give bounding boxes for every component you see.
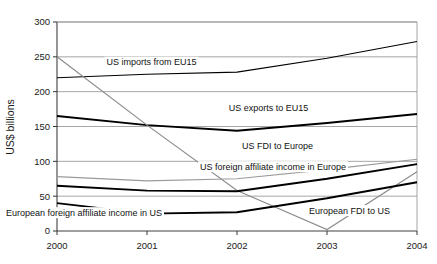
- x-tick-label: 2000: [46, 240, 67, 251]
- chart-canvas: 050100150200250300 20002001200220032004 …: [0, 0, 437, 264]
- y-tick-label: 300: [34, 16, 50, 27]
- y-tick-label: 100: [34, 156, 50, 167]
- y-tick-label: 250: [34, 51, 50, 62]
- series-inline-label: European FDI to US: [309, 206, 390, 216]
- x-tick-label: 2001: [136, 240, 157, 251]
- x-axis-ticks: 20002001200220032004: [46, 231, 427, 251]
- x-tick-label: 2002: [226, 240, 247, 251]
- y-axis-ticks: 050100150200250300: [34, 16, 57, 236]
- series-inline-label: US imports from EU15: [106, 57, 196, 67]
- x-tick-label: 2003: [316, 240, 337, 251]
- y-tick-label: 150: [34, 121, 50, 132]
- y-tick-label: 0: [45, 225, 50, 236]
- y-tick-label: 50: [39, 191, 50, 202]
- series-inline-label: European foreign affiliate income in US: [6, 208, 162, 218]
- y-tick-label: 200: [34, 86, 50, 97]
- series-inline-label: US exports to EU15: [229, 103, 309, 113]
- series-inline-label: US FDI to Europe: [242, 141, 313, 151]
- line-chart: 050100150200250300 20002001200220032004 …: [0, 0, 437, 264]
- x-tick-label: 2004: [406, 240, 427, 251]
- series-inline-label: US foreign affiliate income in Europe: [200, 162, 346, 172]
- y-axis-title: US$ billions: [4, 99, 16, 154]
- y-axis-title-label: US$ billions: [4, 99, 16, 154]
